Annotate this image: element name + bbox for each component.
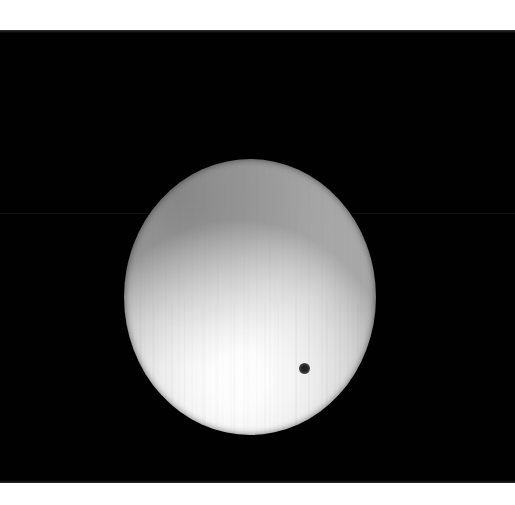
frame-edge-top [0, 30, 515, 33]
frame-edge-bottom [0, 480, 515, 483]
photographic-frame [0, 30, 515, 483]
image-canvas [0, 0, 515, 505]
solar-limb-darkening [124, 159, 376, 435]
solar-disk [124, 159, 376, 435]
transiting-planet-silhouette [299, 363, 310, 374]
